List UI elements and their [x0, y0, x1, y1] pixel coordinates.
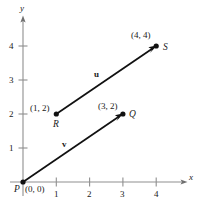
- vector-label-u: u: [94, 70, 99, 79]
- point-coord-P: (0, 0): [25, 185, 45, 194]
- point-label-S: S: [163, 43, 168, 53]
- point-coord-R: (1, 2): [30, 104, 50, 113]
- x-tick-label-2: 2: [87, 190, 92, 199]
- point-label-R: R: [53, 120, 59, 130]
- y-tick-label-3: 3: [9, 76, 14, 85]
- y-axis-label: y: [20, 4, 24, 13]
- y-tick-label-2: 2: [9, 110, 14, 119]
- point-marker-S: [154, 43, 159, 48]
- point-coord-S: (4, 4): [131, 31, 151, 40]
- vector-v-shaft: [23, 117, 119, 183]
- plotted-points: [20, 43, 158, 184]
- x-tick-label-1: 1: [54, 190, 59, 199]
- vector-v-arrow: [23, 113, 124, 182]
- y-tick-label-1: 1: [9, 144, 14, 153]
- x-axis-label: x: [189, 173, 193, 182]
- x-tick-label-4: 4: [154, 190, 159, 199]
- vector-label-v: v: [62, 140, 67, 149]
- x-tick-label-3: 3: [120, 190, 125, 199]
- y-tick-label-4: 4: [9, 42, 14, 51]
- point-coord-Q: (3, 2): [98, 102, 118, 111]
- vector-diagram-figure: y x 1 2 3 4 1 2 3 4 P (0, 0) (1, 2) R (3…: [0, 0, 200, 208]
- point-marker-Q: [120, 111, 125, 116]
- point-label-P: P: [14, 185, 20, 195]
- point-marker-R: [54, 111, 59, 116]
- point-label-Q: Q: [129, 110, 136, 120]
